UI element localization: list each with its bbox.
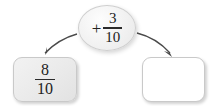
fraction-numerator: 8 [39,62,51,79]
operator-bubble: + 3 10 [78,5,136,51]
operator-expression: + 3 10 [92,11,123,44]
operator-fraction-numerator: 3 [107,11,119,27]
fraction-eight-tenths: 8 10 [35,62,55,97]
arrow-to-start-box [45,34,77,55]
start-value-expression: 8 10 [35,62,55,97]
fraction-denominator: 10 [35,80,55,97]
fraction-three-tenths: 3 10 [103,11,122,44]
arrow-to-result-box [137,33,172,57]
answer-box[interactable] [142,57,205,102]
plus-sign-icon: + [92,20,102,37]
operator-fraction-denominator: 10 [103,29,122,45]
fraction-flow-diagram: 8 10 + 3 10 [0,0,214,106]
start-value-box: 8 10 [13,57,77,102]
